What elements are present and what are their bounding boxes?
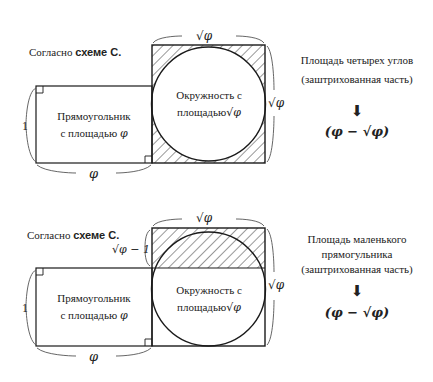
top-circle-symbol: √φ [226, 106, 241, 119]
bottom-explain-line1: Площадь маленького [292, 234, 422, 245]
top-rect-label: Прямоугольник с площадью φ [54, 111, 134, 139]
bottom-dim-width: φ [89, 350, 98, 363]
top-down-arrow-icon: ⬇ [342, 104, 372, 119]
top-circle-label-line2: площадью√φ [166, 107, 252, 118]
bottom-heading-prefix: Согласно [27, 229, 73, 241]
top-explain-line2: (заштрихованная часть) [292, 74, 422, 85]
top-heading-prefix: Согласно [29, 46, 75, 58]
top-explanation: Площадь четырех углов (заштрихованная ча… [292, 55, 422, 85]
bottom-right-angle-mark-2 [145, 339, 152, 346]
bottom-rect-label-line1: Прямоугольник [54, 293, 134, 304]
bottom-heading-bold: схеме С. [73, 229, 119, 241]
bottom-rect-label: Прямоугольник с площадью φ [54, 293, 134, 321]
top-rect-label-line1: Прямоугольник [54, 111, 134, 122]
bottom-circle-label-text: площадью [177, 301, 226, 313]
bottom-dim-square-top: √φ [196, 212, 212, 224]
top-dim-height: 1 [22, 120, 28, 132]
bottom-rect-label-text: с площадью [60, 309, 117, 321]
bottom-dim-band: √φ − 1 [112, 244, 150, 255]
top-circle-label-text: площадью [177, 106, 226, 118]
top-heading: Согласно схеме С. [29, 47, 121, 58]
top-heading-bold: схеме С. [75, 46, 121, 58]
bottom-circle-label: Окружность с площадью√φ [166, 285, 252, 313]
bottom-result-formula: (φ − √φ) [317, 306, 397, 319]
bottom-right-angle-mark-1 [36, 268, 43, 275]
bottom-explanation: Площадь маленького прямогульника (заштри… [292, 234, 422, 275]
bottom-dim-height: 1 [22, 302, 28, 314]
top-dim-width: φ [89, 167, 98, 180]
bottom-down-arrow-icon: ⬇ [342, 284, 372, 299]
bottom-explain-line2: прямогульника [292, 249, 422, 260]
top-circle-label-line1: Окружность с [166, 90, 252, 101]
top-rect-symbol: φ [120, 127, 128, 140]
bottom-heading: Согласно схеме С. [27, 230, 119, 241]
bottom-dim-square-right: √φ [268, 279, 284, 291]
top-rect-label-line2: с площадью φ [54, 128, 134, 139]
top-circle-label: Окружность с площадью√φ [166, 90, 252, 118]
bottom-rect-symbol: φ [120, 309, 128, 322]
top-dim-square-right: √φ [268, 97, 284, 109]
top-right-angle-mark-1 [36, 86, 43, 93]
bottom-circle-label-line1: Окружность с [166, 285, 252, 296]
bottom-circle-symbol: √φ [226, 301, 241, 314]
top-rect-label-text: с площадью [60, 127, 117, 139]
top-result-formula: (φ − √φ) [317, 125, 397, 138]
top-dim-square-top: √φ [196, 30, 212, 42]
top-right-angle-mark-2 [145, 156, 152, 163]
top-explain-line1: Площадь четырех углов [292, 55, 422, 66]
bottom-rect-label-line2: с площадью φ [54, 310, 134, 321]
bottom-explain-line3: (заштрихованная часть) [292, 264, 422, 275]
bottom-circle-label-line2: площадью√φ [166, 302, 252, 313]
